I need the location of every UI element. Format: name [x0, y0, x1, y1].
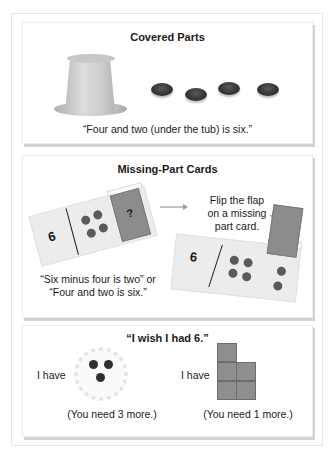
tub-body [65, 58, 115, 113]
cube-blocks [217, 343, 257, 401]
instruction-line: part card. [193, 220, 281, 233]
plate-dot [96, 373, 105, 382]
caption-line: “Four and two is six.” [39, 286, 157, 299]
tub-top [67, 54, 115, 63]
wish-title: “I wish I had 6.” [23, 332, 312, 344]
plate-dot [89, 360, 98, 369]
covered-parts-panel: Covered Parts “Four and two (under the t… [22, 22, 313, 144]
card-number: 6 [189, 249, 198, 265]
instruction-line: Flip the flap [193, 194, 281, 207]
block [236, 362, 256, 381]
counter [185, 88, 207, 101]
left-missing-part-card: 6 ? [28, 185, 157, 266]
missing-part-caption: “Six minus four is two” or “Four and two… [39, 273, 157, 299]
missing-part-cards-title: Missing-Part Cards [23, 163, 312, 175]
wish-panel: “I wish I had 6.” I have (You need 3 mor… [22, 325, 313, 437]
covered-parts-caption: “Four and two (under the tub) is six.” [23, 123, 312, 136]
need-caption-left: (You need 3 more.) [57, 408, 167, 421]
arrow-right-icon [159, 203, 189, 211]
covered-parts-title: Covered Parts [23, 31, 312, 43]
counter [218, 82, 240, 95]
question-mark: ? [115, 204, 145, 223]
paper-plate [74, 347, 128, 401]
instruction-line: on a missing [193, 207, 281, 220]
flip-instruction: Flip the flap on a missing part card. [193, 194, 281, 233]
need-caption-right: (You need 1 more.) [193, 408, 303, 421]
caption-line: “Six minus four is two” or [39, 273, 157, 286]
block [217, 362, 237, 381]
i-have-label-right: I have [181, 369, 210, 382]
counter [257, 83, 279, 96]
block [217, 381, 237, 400]
block [217, 343, 237, 362]
plate-dot [104, 360, 113, 369]
i-have-label-left: I have [37, 369, 66, 382]
missing-part-cards-panel: Missing-Part Cards 6 ? Flip the flap on … [22, 155, 313, 318]
block [236, 381, 256, 400]
counter [151, 83, 173, 96]
